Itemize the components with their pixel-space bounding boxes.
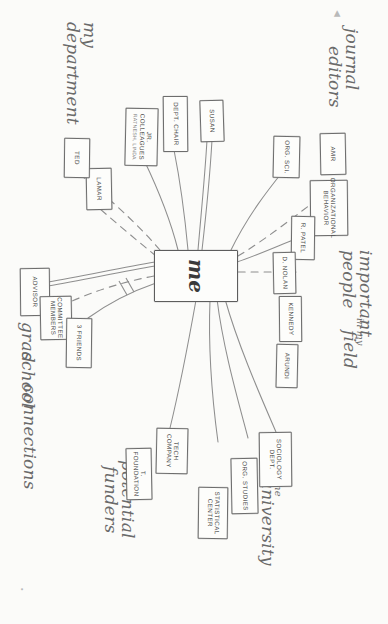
node-dept-chair-label: DEPT. CHAIR (172, 102, 179, 146)
caption-journal-editors: journal editors (326, 28, 360, 108)
node-3-friends[interactable]: 3 FRIENDS (66, 318, 93, 368)
node-d-nolan[interactable]: D. NOLAN (273, 252, 297, 294)
caption-important-people-line4: field (341, 330, 358, 369)
node-arundi-label: ARUNDI (283, 353, 290, 380)
node-sociology-dept-label: SOCIOLOGY DEPT. (268, 435, 282, 484)
page-corner-mark-dot: • (19, 588, 26, 590)
node-org-studies[interactable]: ORG. STUDIES (230, 458, 258, 515)
node-jr-colleagues-sublabel: RATNESH, LINDA (131, 114, 138, 160)
node-me-label: me (185, 259, 207, 293)
node-3-friends-label: 3 FRIENDS (75, 325, 82, 361)
node-tech-company[interactable]: TECH COMPANY (156, 428, 189, 475)
node-statistical-center-label: STATISTICAL CENTER (206, 490, 220, 536)
node-ted[interactable]: TED (64, 138, 90, 178)
caption-journal-editors-line2: editors (326, 46, 343, 108)
edge-me-susan-a (202, 140, 212, 250)
caption-the-university-line2: university (259, 478, 276, 566)
node-organizational-behavior-label: ORGANIZATIONAL BEHAVIOR (322, 178, 337, 238)
caption-important-people-field: field (341, 330, 358, 369)
node-t-foundation-label: T. FOUNDATION (132, 451, 147, 497)
edge-me-susan-b (198, 140, 207, 250)
node-arundi[interactable]: ARUNDI (276, 344, 299, 388)
node-org-sci-label: ORG. SCI. (283, 140, 291, 174)
caption-my-department-line2: department (64, 22, 81, 125)
node-tech-company-label: TECH COMPANY (165, 431, 180, 471)
node-organizational-behavior[interactable]: ORGANIZATIONAL BEHAVIOR (310, 180, 349, 236)
caption-the-university: university (259, 478, 276, 566)
caption-grad-school-line3: connections (21, 384, 38, 490)
diagram-canvas: me journal editors AMR ORGANIZATIONAL BE… (0, 0, 388, 624)
node-kennedy-label: KENNEDY (287, 302, 294, 335)
caption-my-department: my department (64, 22, 98, 125)
node-jr-colleagues[interactable]: JR. COLLEAGUES RATNESH, LINDA (124, 108, 158, 167)
node-org-studies-label: ORG. STUDIES (241, 461, 249, 511)
node-jr-colleagues-label: JR. COLLEAGUES (137, 111, 152, 163)
node-statistical-center[interactable]: STATISTICAL CENTER (198, 487, 229, 539)
edge-me-org-sci (230, 170, 284, 252)
edge-me-dept-chair (174, 150, 188, 250)
edge-me-tech-company (170, 300, 196, 428)
caption-grad-school-connections-line3: connections (21, 384, 38, 490)
caption-potential-funders-line2: funders (102, 466, 119, 539)
node-ted-label: TED (73, 151, 80, 165)
node-t-foundation[interactable]: T. FOUNDATION (126, 448, 153, 500)
node-amr[interactable]: AMR (320, 133, 347, 175)
node-org-sci[interactable]: ORG. SCI. (273, 136, 301, 179)
node-sociology-dept[interactable]: SOCIOLOGY DEPT. (259, 432, 293, 487)
node-advisor-label: ADVISOR (31, 276, 38, 307)
node-susan-label: SUSAN (208, 109, 216, 133)
edge-me-org-studies (217, 299, 248, 438)
node-me[interactable]: me (154, 250, 238, 302)
node-amr-label: AMR (329, 146, 336, 161)
edge-me-3-friends (88, 283, 156, 318)
edge-me-sociology-dept (225, 299, 276, 432)
edge-me-statistical-center (210, 300, 218, 442)
node-lamar-label: LAMAR (95, 177, 102, 201)
node-committee-members-label: COMMITTEE MEMBERS (49, 297, 64, 338)
node-dept-chair[interactable]: DEPT. CHAIR (163, 96, 189, 152)
caption-my-department-line1: my (81, 22, 98, 125)
edge-me-jr-colleagues (144, 160, 178, 250)
caption-journal-editors-line1: journal (343, 28, 360, 108)
node-susan[interactable]: SUSAN (199, 100, 224, 143)
page-corner-mark-left: ◄ (332, 8, 344, 19)
node-kennedy[interactable]: KENNEDY (279, 296, 302, 342)
node-d-nolan-label: D. NOLAN (281, 257, 289, 290)
node-r-patel-label: R. PATEL (299, 223, 306, 253)
edge-me-advisor-b (48, 266, 155, 286)
